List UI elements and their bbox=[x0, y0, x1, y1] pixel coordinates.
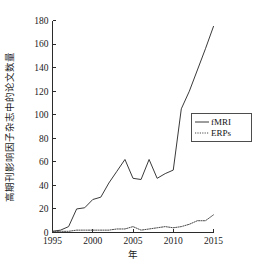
x-tick-label: 2005 bbox=[124, 236, 143, 246]
y-tick-label: 120 bbox=[34, 87, 49, 97]
y-tick-label: 20 bbox=[39, 204, 49, 214]
y-tick-label: 100 bbox=[34, 110, 49, 120]
y-tick-label: 60 bbox=[39, 157, 49, 167]
x-tick-label: 1995 bbox=[43, 236, 62, 246]
x-tick-label: 2010 bbox=[164, 236, 183, 246]
y-tick-label: 140 bbox=[34, 63, 49, 73]
y-tick-label: 160 bbox=[34, 39, 49, 49]
y-axis-label: 高期刊影响因子杂志中的论文数量 bbox=[4, 52, 15, 202]
y-tick-label: 180 bbox=[34, 16, 49, 26]
chart-container: 高期刊影响因子杂志中的论文数量 020406080100120140160180… bbox=[0, 0, 259, 273]
y-tick-label: 80 bbox=[39, 134, 49, 144]
y-tick-label: 40 bbox=[39, 181, 49, 191]
chart-legend: fMRI ERPs bbox=[192, 114, 252, 142]
legend-label-fmri: fMRI bbox=[211, 117, 231, 127]
x-tick-label: 2000 bbox=[83, 236, 102, 246]
line-chart: 高期刊影响因子杂志中的论文数量 020406080100120140160180… bbox=[0, 0, 259, 273]
legend-label-erps: ERPs bbox=[211, 128, 232, 138]
x-axis-label: 年 bbox=[128, 249, 138, 260]
x-tick-label: 2015 bbox=[204, 236, 223, 246]
